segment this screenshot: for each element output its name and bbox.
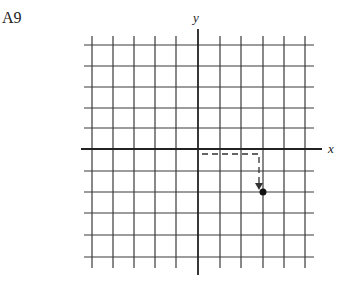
x-axis-label: x <box>327 141 334 156</box>
y-axis-label: y <box>191 10 199 25</box>
point-marker <box>260 189 267 196</box>
coordinate-grid: x y <box>0 0 353 287</box>
dashed-path <box>202 154 259 185</box>
grid-lines <box>84 36 314 268</box>
